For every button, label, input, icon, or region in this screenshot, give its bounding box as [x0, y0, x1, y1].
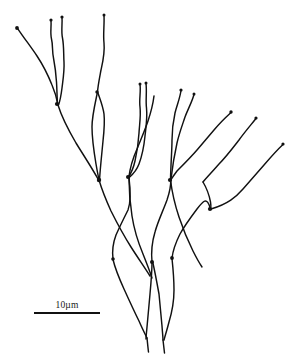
leaf-center-right	[152, 180, 171, 262]
filament-tip-dot	[55, 102, 59, 106]
scale-bar: 10µm	[34, 300, 100, 314]
filament-tip-dot	[281, 142, 284, 145]
branch-left-axis-down	[58, 105, 98, 179]
filament-tip-dot	[111, 257, 115, 261]
filament-tip-dot	[145, 82, 148, 85]
rosette-right-prong	[164, 259, 174, 341]
filament-tip-dot	[254, 116, 257, 119]
leaf-left-outer	[99, 180, 150, 276]
filament-tip-dot	[150, 260, 154, 264]
rosette-left-prong	[113, 260, 147, 339]
filament-tip-dot	[95, 90, 98, 93]
filament-tip-dot	[208, 207, 212, 211]
filament-tip-dot	[229, 110, 232, 113]
stalk-right-fine	[163, 340, 165, 353]
branch-right-arc-upper	[171, 113, 231, 181]
branch-left-upper-b	[59, 18, 65, 106]
branch-right-arc-mid	[203, 119, 256, 183]
figure-root: 10µm	[0, 0, 292, 358]
filament-tip-dots-group	[15, 14, 285, 265]
scale-bar-label: 10µm	[34, 300, 100, 311]
branch-mid-left-hook	[98, 93, 105, 181]
filament-tip-dot	[97, 178, 101, 182]
filament-tip-dot	[15, 26, 19, 30]
filament-tip-dot	[168, 178, 172, 182]
stalk-left-fine	[147, 338, 149, 352]
leaf-right-inner	[172, 201, 211, 258]
filament-tip-dot	[179, 88, 182, 91]
filament-tip-dot	[126, 175, 130, 179]
branch-center-vstem	[129, 96, 154, 178]
scale-bar-line	[34, 312, 100, 314]
filament-tip-dot	[170, 256, 174, 260]
filament-tip-dot	[139, 83, 142, 86]
branch-mid-upper-long	[98, 16, 105, 93]
rosette-center-right-prong	[153, 263, 163, 341]
filament-tip-dot	[60, 15, 63, 18]
filament-tip-dot	[193, 93, 196, 96]
filament-tip-dot	[103, 14, 106, 17]
branch-right-arc-lower	[211, 145, 283, 210]
branch-mid-to-junction	[92, 92, 99, 180]
filament-tip-dot	[49, 18, 52, 21]
leaf-center-left	[129, 178, 152, 278]
